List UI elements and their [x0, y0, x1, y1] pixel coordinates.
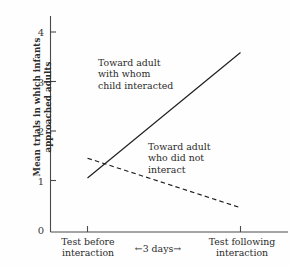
chart-figure: 4 3 2 1 0 Mean trials in which infants a… [0, 0, 290, 267]
y-tick-label-0: 0 [38, 225, 44, 236]
y-axis-title-line1: Mean trials in which infants [32, 12, 43, 202]
y-axis-title-line2: approached adults [43, 12, 54, 202]
interval-annotation-3-days: ←3 days→ [126, 243, 190, 254]
annotation-non-interacting-adult: Toward adult who did not interact [148, 141, 211, 175]
x-tick-label-after: Test following interaction [199, 236, 285, 259]
y-axis-title: Mean trials in which infants approached … [32, 12, 54, 202]
annotation-interacted-adult: Toward adult with whom child interacted [98, 57, 173, 91]
x-tick-label-before: Test before interaction [47, 236, 129, 259]
